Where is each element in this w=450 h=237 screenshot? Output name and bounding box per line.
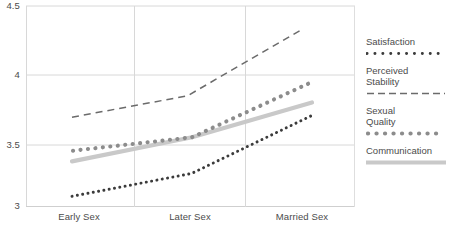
legend-item-perceived-stability[interactable]: Perceived Stability <box>366 65 450 98</box>
legend-swatch-communication <box>366 158 446 167</box>
ytick-label-3.5: 3.5 <box>0 139 20 150</box>
legend-swatch-perceived-stability <box>366 89 446 98</box>
chart-container: 4.5 4 3.5 3 Early Sex Later Sex Married … <box>0 0 450 237</box>
legend-item-sexual-quality[interactable]: Sexual Quality <box>366 105 450 138</box>
xtick-label-married-sex: Married Sex <box>257 211 347 222</box>
legend-label-sexual-quality-line2: Quality <box>366 116 450 127</box>
legend-label-communication: Communication <box>366 145 450 156</box>
legend-label-satisfaction: Satisfaction <box>366 36 450 47</box>
chart-legend: Satisfaction Perceived Stability Sexual … <box>366 36 450 174</box>
ytick-label-3: 3 <box>0 200 20 211</box>
legend-label-sexual-quality: Sexual <box>366 105 450 116</box>
xtick-label-early-sex: Early Sex <box>34 211 124 222</box>
ytick-label-4.5: 4.5 <box>0 0 20 11</box>
ytick-label-4: 4 <box>0 69 20 80</box>
legend-swatch-sexual-quality <box>366 129 446 138</box>
legend-item-communication[interactable]: Communication <box>366 145 450 167</box>
xtick-label-later-sex: Later Sex <box>145 211 235 222</box>
legend-swatch-satisfaction <box>366 49 446 58</box>
legend-label-perceived-stability-line2: Stability <box>366 76 450 87</box>
legend-label-perceived-stability: Perceived <box>366 65 450 76</box>
legend-item-satisfaction[interactable]: Satisfaction <box>366 36 450 58</box>
